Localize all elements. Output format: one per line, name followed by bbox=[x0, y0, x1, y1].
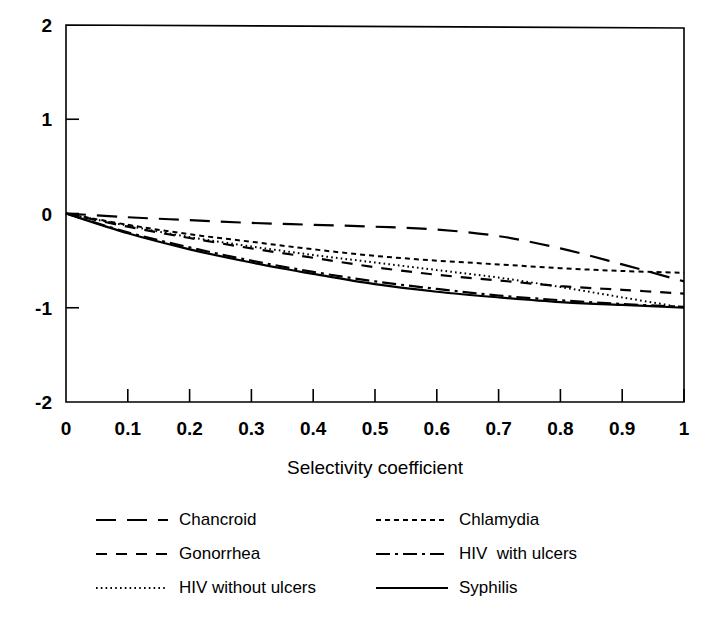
y-tick-label: 0 bbox=[41, 204, 52, 225]
series-line bbox=[66, 214, 684, 307]
legend-item[interactable]: HIV with ulcers bbox=[375, 544, 655, 564]
data-series-group bbox=[66, 214, 684, 308]
x-tick-label: 0.8 bbox=[547, 418, 573, 439]
x-tick-label: 0.3 bbox=[238, 418, 264, 439]
legend-item[interactable]: Chancroid bbox=[95, 510, 375, 530]
legend-item-label: Gonorrhea bbox=[179, 544, 260, 564]
figure-root: 210-1-2 00.10.20.30.40.50.60.70.80.91 Se… bbox=[0, 0, 717, 632]
series-line bbox=[66, 214, 684, 273]
legend-line-swatch bbox=[375, 581, 449, 595]
tick-marks-group bbox=[66, 119, 684, 402]
legend-item-label: HIV with ulcers bbox=[459, 544, 577, 564]
y-tick-label: 2 bbox=[41, 15, 52, 36]
legend-item-label: Syphilis bbox=[459, 578, 518, 598]
legend-item[interactable]: HIV without ulcers bbox=[95, 578, 375, 598]
legend-line-swatch bbox=[375, 547, 449, 561]
legend-item[interactable]: Syphilis bbox=[375, 578, 655, 598]
x-tick-label: 0.5 bbox=[362, 418, 389, 439]
chart-legend: ChancroidChlamydiaGonorrheaHIV with ulce… bbox=[95, 503, 655, 613]
legend-line-swatch bbox=[95, 547, 169, 561]
chart-plot-area: 210-1-2 00.10.20.30.40.50.60.70.80.91 Se… bbox=[0, 0, 717, 500]
x-tick-label: 0.7 bbox=[485, 418, 511, 439]
y-tick-label: 1 bbox=[41, 109, 52, 130]
legend-item-label: Chlamydia bbox=[459, 510, 539, 530]
legend-item[interactable]: Gonorrhea bbox=[95, 544, 375, 564]
plot-frame bbox=[66, 25, 684, 402]
line-chart-svg: 210-1-2 00.10.20.30.40.50.60.70.80.91 Se… bbox=[0, 0, 717, 500]
legend-item[interactable]: Chlamydia bbox=[375, 510, 655, 530]
series-line bbox=[66, 214, 684, 282]
y-tick-label: -2 bbox=[35, 392, 52, 413]
x-tick-label: 0.1 bbox=[115, 418, 142, 439]
series-line bbox=[66, 214, 684, 308]
x-tick-label: 0.9 bbox=[609, 418, 635, 439]
legend-line-swatch bbox=[95, 513, 169, 527]
axes-group bbox=[66, 25, 684, 402]
legend-line-swatch bbox=[95, 581, 169, 595]
x-tick-label: 0 bbox=[61, 418, 72, 439]
y-tick-label: -1 bbox=[35, 298, 52, 319]
x-tick-label: 0.6 bbox=[424, 418, 450, 439]
legend-grid: ChancroidChlamydiaGonorrheaHIV with ulce… bbox=[95, 503, 655, 605]
x-axis-tick-labels: 00.10.20.30.40.50.60.70.80.91 bbox=[61, 418, 690, 439]
series-line bbox=[66, 214, 684, 308]
legend-line-swatch bbox=[375, 513, 449, 527]
legend-item-label: HIV without ulcers bbox=[179, 578, 316, 598]
x-axis-title: Selectivity coefficient bbox=[287, 457, 464, 478]
x-tick-label: 0.2 bbox=[176, 418, 202, 439]
y-axis-tick-labels: 210-1-2 bbox=[35, 15, 52, 413]
legend-item-label: Chancroid bbox=[179, 510, 257, 530]
x-tick-label: 1 bbox=[679, 418, 690, 439]
x-tick-label: 0.4 bbox=[300, 418, 327, 439]
